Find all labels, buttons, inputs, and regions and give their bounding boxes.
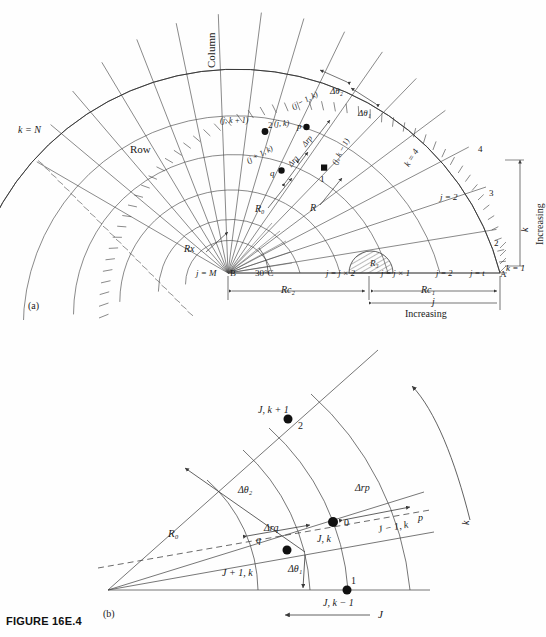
b-radial-k2 xyxy=(108,532,434,590)
label-k-equals-1: k = 1 xyxy=(506,263,525,273)
b-label-R0: R₀ xyxy=(168,527,179,539)
b-label-node-up: J, k + 1 xyxy=(258,404,289,415)
b-label-dtheta2: Δθ₂ xyxy=(238,484,252,495)
label-j-jx1: j = j × 1 xyxy=(381,268,410,278)
label-node-2: 2 xyxy=(268,120,273,130)
panel-b-diagram xyxy=(0,340,546,630)
b-label-node-down: J, k − 1 xyxy=(323,597,354,608)
b-label-j-axis: J xyxy=(378,608,383,620)
label-node-jk-plus-1: (j, k + 1) xyxy=(220,116,249,125)
label-column: Column xyxy=(205,33,217,68)
b-label-node-center-num: 0 xyxy=(344,517,349,528)
b-label-k-axis: k xyxy=(460,521,471,525)
label-ring-2: 2 xyxy=(494,238,499,248)
panel-a-tag: (a) xyxy=(28,300,39,311)
radial-lines xyxy=(37,13,500,273)
b-label-node-outer-sym: p xyxy=(418,512,423,523)
outer-arc-hatching xyxy=(99,101,507,318)
label-k-equals-N: k = N xyxy=(18,124,41,135)
b-label-node-inner-sym: q xyxy=(256,534,261,545)
b-node-1 xyxy=(343,586,352,595)
panel-b-spacing-arrows xyxy=(185,386,470,615)
label-node-jk: (j, k) xyxy=(274,119,289,128)
label-j-2-base: j = 2 xyxy=(436,268,453,278)
dtheta2-arrow xyxy=(320,70,347,82)
label-j-jx2: j = j × 2 xyxy=(326,268,355,278)
panel-a-spacing-arrows xyxy=(206,70,376,273)
b-label-node-up-num: 2 xyxy=(298,420,303,431)
inner-dense-radials xyxy=(228,223,292,273)
label-dtheta1: Δθ₁ xyxy=(358,108,371,118)
label-node-p: p xyxy=(297,121,302,131)
label-R3: R₃ xyxy=(370,258,379,268)
b-label-node-inner: J + 1, k xyxy=(222,567,253,578)
panel-a-grid xyxy=(0,13,500,320)
label-Rc1: Rc₁ xyxy=(421,284,435,295)
label-increasing-j: Increasing xyxy=(405,308,447,319)
figure-16e4: k = N Column Row (j, k + 1) 2 (j, k) (j … xyxy=(0,0,546,637)
label-k-axis-a: k xyxy=(519,228,530,232)
b-dtheta1-arrow xyxy=(303,555,305,588)
b-radial-k4 xyxy=(108,350,378,590)
label-j-axis-a: j xyxy=(432,296,435,307)
b-label-node-center: J, k xyxy=(317,533,331,544)
figure-caption: FIGURE 16E.4 xyxy=(6,615,82,627)
b-node-2 xyxy=(284,415,293,424)
b-label-drp: Δrp xyxy=(355,482,370,493)
b-node-q xyxy=(283,546,292,555)
b-node-0 xyxy=(328,517,338,527)
label-row: Row xyxy=(130,143,151,155)
panel-a-dimension-lines xyxy=(228,160,524,310)
node-1 xyxy=(321,165,327,171)
panel-b-grid xyxy=(98,350,434,590)
b-r0-dashed xyxy=(98,510,430,568)
label-node-q: q xyxy=(270,168,275,178)
concentric-arcs xyxy=(0,69,500,320)
label-point-A: A xyxy=(500,269,507,279)
label-ring-4: 4 xyxy=(478,144,483,154)
label-j2-diag: j = 2 xyxy=(440,192,458,202)
label-point-B: B xyxy=(230,268,236,278)
left-edge-hatching xyxy=(38,161,193,316)
b-k-arrow xyxy=(412,386,470,520)
b-dtheta2-arrow xyxy=(185,468,305,552)
label-increasing-k: Increasing xyxy=(534,203,545,245)
b-drp-arrow xyxy=(343,507,410,520)
node-q xyxy=(278,167,284,173)
label-j-t: j = t xyxy=(470,268,485,278)
label-Rc2: Rc₂ xyxy=(281,284,295,295)
label-dtheta2: Δθ₂ xyxy=(330,86,343,96)
b-radial-k3 xyxy=(108,492,424,590)
label-R: R xyxy=(310,202,316,213)
outer-boundary-arc xyxy=(0,69,500,320)
b-label-node-down-num: 1 xyxy=(351,575,356,586)
label-node-1: 1 xyxy=(320,174,325,184)
label-Rx: Rx xyxy=(184,243,195,254)
label-j-equals-M: j = M xyxy=(196,268,217,278)
b-arc-3 xyxy=(269,428,348,590)
label-ring-3: 3 xyxy=(489,188,494,198)
node-p xyxy=(303,124,309,130)
label-angle-30c: 30°C xyxy=(255,268,274,278)
b-label-dtheta1: Δθ₁ xyxy=(288,563,302,574)
label-R0: R₀ xyxy=(255,203,265,214)
b-label-drq: Δrq xyxy=(264,522,278,533)
panel-b-tag: (b) xyxy=(103,608,115,619)
